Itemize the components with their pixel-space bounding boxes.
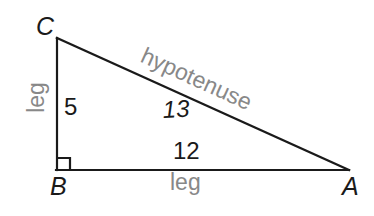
right-angle-marker-icon (58, 158, 70, 170)
horizontal-leg-measure: 12 (173, 139, 200, 163)
triangle-diagram: C B A 5 12 13 leg leg hypotenuse (0, 0, 374, 216)
vertex-label-b: B (50, 174, 67, 199)
hypotenuse-measure: 13 (162, 97, 190, 122)
horizontal-leg-descriptor: leg (170, 171, 201, 194)
vertical-leg-measure: 5 (64, 95, 77, 119)
vertical-leg-descriptor: leg (25, 75, 48, 121)
vertex-label-c: C (36, 14, 54, 39)
vertex-label-a: A (342, 174, 359, 199)
hypotenuse-line (57, 38, 349, 170)
